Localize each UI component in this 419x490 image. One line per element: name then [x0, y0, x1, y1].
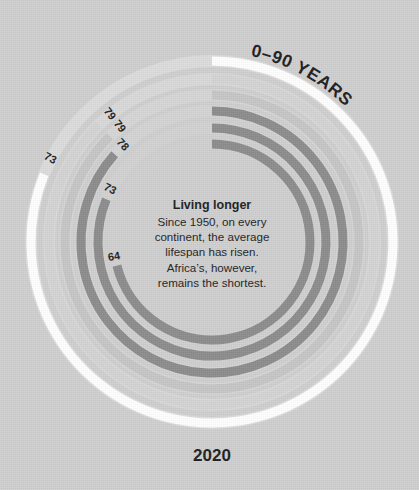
- center-paragraph-line: Africa’s, however,: [167, 261, 258, 274]
- center-paragraph-line: remains the shortest.: [158, 276, 266, 289]
- infographic-stage: 737979787364 0–90 YEARS 2020 Living long…: [0, 0, 419, 490]
- bottom-year-label: 2020: [193, 446, 231, 465]
- center-paragraph-line: lifespan has risen.: [165, 245, 258, 258]
- center-paragraph: Since 1950, on everycontinent, the avera…: [155, 215, 270, 289]
- center-paragraph-line: Since 1950, on every: [158, 215, 267, 228]
- radial-chart: 737979787364 0–90 YEARS 2020 Living long…: [0, 0, 419, 490]
- center-heading: Living longer: [173, 198, 252, 212]
- center-paragraph-line: continent, the average: [155, 230, 270, 243]
